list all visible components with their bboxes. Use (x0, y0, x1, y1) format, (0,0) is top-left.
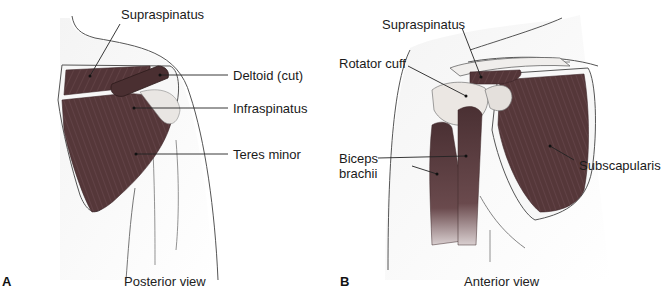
label-deltoid-cut: Deltoid (cut) (233, 68, 303, 83)
anatomy-illustration (0, 0, 667, 300)
caption-anterior-view: Anterior view (464, 274, 539, 289)
label-infraspinatus: Infraspinatus (233, 101, 307, 116)
caption-posterior-view: Posterior view (124, 274, 206, 289)
label-subscapularis: Subscapularis (579, 158, 661, 173)
panel-letter-b: B (340, 274, 349, 289)
label-biceps-line1: Biceps (339, 151, 378, 166)
label-rotator-cuff: Rotator cuff (339, 56, 406, 71)
panel-letter-a: A (2, 274, 11, 289)
label-supraspinatus-posterior: Supraspinatus (121, 7, 204, 22)
label-biceps-line2: brachii (339, 166, 377, 181)
posterior-view-illustration (58, 16, 220, 280)
anterior-view-illustration (385, 15, 610, 280)
label-teres-minor: Teres minor (233, 147, 301, 162)
label-supraspinatus-anterior: Supraspinatus (382, 17, 465, 32)
